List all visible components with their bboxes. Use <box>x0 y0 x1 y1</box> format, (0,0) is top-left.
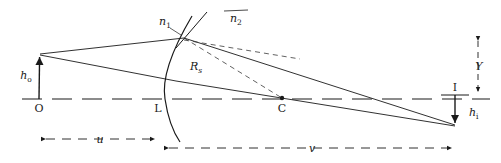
incident-ray-upper <box>40 38 184 54</box>
label-object-point: O <box>34 102 43 115</box>
center-of-curvature-dot <box>280 96 284 100</box>
object-arrow <box>39 57 40 99</box>
refracted-ray-upper <box>184 38 455 125</box>
label-radius: Rs <box>189 60 202 75</box>
label-image-point: I <box>453 81 457 94</box>
label-transverse-offset: Y <box>475 60 484 73</box>
n2-overline-tick <box>224 10 248 11</box>
label-vertex: L <box>154 102 162 115</box>
label-n1: n1 <box>159 15 171 30</box>
optics-ray-diagram: n1 n2 Rs ho O L C I hi Y u v <box>0 0 501 163</box>
label-n2: n2 <box>230 12 242 27</box>
label-image-height: hi <box>469 106 479 121</box>
label-object-distance: u <box>96 133 103 146</box>
incident-ray-lower <box>40 55 176 81</box>
label-object-height: ho <box>20 69 32 84</box>
n1-leader-tick <box>170 28 181 35</box>
label-image-distance: v <box>309 142 316 155</box>
diagram-canvas: n1 n2 Rs ho O L C I hi Y u v <box>0 0 501 163</box>
refracted-ray-lower <box>176 81 455 126</box>
label-center-of-curvature: C <box>278 102 286 115</box>
